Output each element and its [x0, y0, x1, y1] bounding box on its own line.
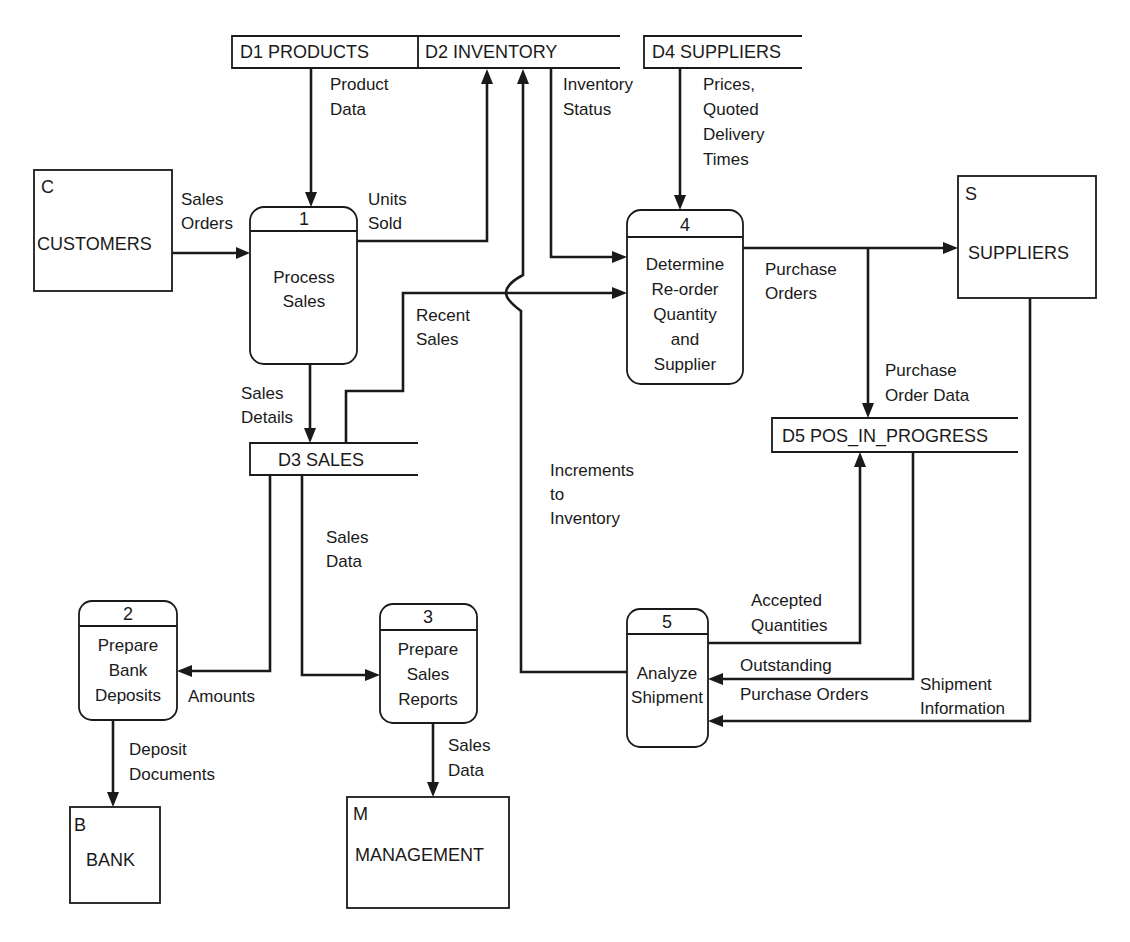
flow-deposit-documents: Deposit Documents: [107, 720, 215, 807]
svg-text:Amounts: Amounts: [188, 687, 255, 706]
svg-text:Outstanding: Outstanding: [740, 656, 832, 675]
svg-text:Information: Information: [920, 699, 1005, 718]
data-store-label: D4 SUPPLIERS: [652, 42, 781, 62]
flow-sales-details: Sales Details: [241, 364, 316, 443]
process-label-line: Process: [273, 268, 334, 287]
process-label-line: Quantity: [653, 305, 717, 324]
data-store-label: D1 PRODUCTS: [240, 42, 369, 62]
process-label-line: Deposits: [95, 686, 161, 705]
svg-text:Documents: Documents: [129, 765, 215, 784]
process-label-line: Prepare: [98, 636, 158, 655]
data-store-d2-inventory: D2 INVENTORY: [418, 36, 620, 68]
svg-text:Details: Details: [241, 408, 293, 427]
entity-suppliers: S SUPPLIERS: [958, 176, 1096, 298]
svg-text:Inventory: Inventory: [563, 75, 633, 94]
svg-text:Recent: Recent: [416, 306, 470, 325]
svg-text:Purchase Orders: Purchase Orders: [740, 685, 869, 704]
flow-sales-data-to-management: Sales Data: [427, 723, 491, 797]
flow-outstanding-purchase-orders: Outstanding Purchase Orders: [708, 452, 913, 704]
process-number: 5: [662, 612, 672, 632]
svg-text:Quoted: Quoted: [703, 100, 759, 119]
process-number: 4: [680, 215, 690, 235]
svg-text:Prices,: Prices,: [703, 75, 755, 94]
flow-units-sold: Units Sold: [357, 69, 493, 241]
entity-name: SUPPLIERS: [968, 243, 1069, 263]
svg-text:Purchase: Purchase: [765, 260, 837, 279]
entity-code: C: [41, 177, 54, 197]
process-number: 1: [299, 209, 309, 229]
arrowhead-icon: [708, 715, 723, 727]
svg-text:Order Data: Order Data: [885, 386, 970, 405]
process-label-line: Analyze: [637, 664, 697, 683]
svg-text:Units: Units: [368, 190, 407, 209]
svg-text:Deposit: Deposit: [129, 740, 187, 759]
flow-purchase-order-data: Purchase Order Data: [862, 248, 970, 418]
data-store-d5-pos-in-progress: D5 POS_IN_PROGRESS: [772, 418, 1018, 452]
svg-text:to: to: [550, 485, 564, 504]
entity-code: M: [353, 804, 368, 824]
svg-text:Times: Times: [703, 150, 749, 169]
arrowhead-icon: [517, 69, 529, 84]
arrowhead-icon: [708, 673, 723, 685]
process-number: 2: [123, 604, 133, 624]
flow-sales-orders: Sales Orders: [172, 190, 250, 259]
process-label-line: Reports: [398, 690, 458, 709]
flow-accepted-quantities: Accepted Quantities: [708, 452, 866, 643]
entity-code: B: [74, 815, 86, 835]
process-label-line: Bank: [109, 661, 148, 680]
arrowhead-icon: [854, 452, 866, 467]
svg-text:Data: Data: [330, 100, 366, 119]
svg-text:Delivery: Delivery: [703, 125, 765, 144]
entity-code: S: [965, 184, 977, 204]
entity-bank: B BANK: [70, 807, 160, 903]
arrowhead-icon: [612, 251, 627, 263]
svg-text:Sales: Sales: [241, 384, 284, 403]
svg-text:Status: Status: [563, 100, 611, 119]
process-1-process-sales: 1 Process Sales: [250, 207, 357, 364]
process-label-line: and: [671, 330, 699, 349]
process-label-line: Shipment: [631, 688, 703, 707]
process-label-line: Sales: [283, 292, 326, 311]
arrowhead-icon: [427, 782, 439, 797]
flow-product-data: Product Data: [305, 68, 389, 207]
process-3-prepare-sales-reports: 3 Prepare Sales Reports: [380, 604, 477, 723]
entity-management: M MANAGEMENT: [347, 797, 509, 908]
svg-text:Sales: Sales: [416, 330, 459, 349]
svg-text:Accepted: Accepted: [751, 591, 822, 610]
data-store-label: D2 INVENTORY: [425, 42, 557, 62]
process-label-line: Supplier: [654, 355, 717, 374]
arrowhead-icon: [107, 792, 119, 807]
svg-text:Quantities: Quantities: [751, 616, 828, 635]
process-5-analyze-shipment: 5 Analyze Shipment: [627, 609, 708, 747]
entity-name: MANAGEMENT: [355, 845, 484, 865]
process-2-prepare-bank-deposits: 2 Prepare Bank Deposits: [79, 601, 177, 720]
flow-purchase-orders: Purchase Orders: [743, 242, 958, 303]
svg-text:Inventory: Inventory: [550, 509, 620, 528]
svg-text:Data: Data: [448, 761, 484, 780]
flow-prices-quoted-delivery-times: Prices, Quoted Delivery Times: [674, 68, 765, 210]
svg-text:Sold: Sold: [368, 214, 402, 233]
svg-text:Orders: Orders: [765, 284, 817, 303]
arrowhead-icon: [674, 195, 686, 210]
arrowhead-icon: [236, 247, 250, 259]
data-store-d4-suppliers: D4 SUPPLIERS: [644, 36, 802, 68]
data-store-d3-sales: D3 SALES: [250, 443, 418, 475]
svg-text:Purchase: Purchase: [885, 361, 957, 380]
svg-text:Increments: Increments: [550, 461, 634, 480]
arrowhead-icon: [612, 287, 627, 299]
arrowhead-icon: [304, 428, 316, 443]
arrowhead-icon: [862, 403, 874, 418]
data-store-label: D3 SALES: [278, 450, 364, 470]
flow-increments-to-inventory: Increments to Inventory: [506, 69, 634, 672]
svg-text:Sales: Sales: [181, 190, 224, 209]
flow-sales-data-to-reports: Sales Data: [302, 475, 380, 681]
arrowhead-icon: [177, 665, 192, 677]
arrowhead-icon: [481, 69, 493, 84]
arrowhead-icon: [305, 192, 317, 207]
process-label-line: Re-order: [651, 280, 718, 299]
process-label-line: Sales: [407, 665, 450, 684]
flow-amounts: Amounts: [177, 475, 270, 706]
flow-inventory-status: Inventory Status: [551, 68, 633, 263]
data-store-label: D5 POS_IN_PROGRESS: [782, 426, 988, 447]
svg-text:Sales: Sales: [448, 736, 491, 755]
